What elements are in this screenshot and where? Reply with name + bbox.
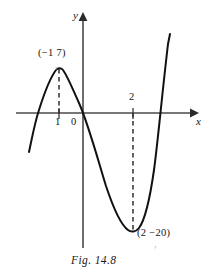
maximum-point-label: (−1 7) bbox=[38, 48, 66, 59]
x-tick-label-1: 1 bbox=[55, 117, 60, 128]
x-axis-label: x bbox=[196, 116, 201, 127]
maximum-point-faint-comma: , bbox=[55, 60, 58, 70]
y-axis-label: y bbox=[73, 10, 78, 21]
x-axis bbox=[16, 109, 199, 118]
x-tick-label-2: 2 bbox=[129, 92, 134, 103]
graph-canvas bbox=[0, 0, 209, 274]
y-axis bbox=[79, 12, 88, 248]
figure-container: y x 0 1 2 (−1 7) , (2 −20) , Fig. 14.8 bbox=[0, 0, 209, 274]
minimum-point-faint-comma: , bbox=[154, 239, 157, 249]
minimum-point-label: (2 −20) bbox=[137, 228, 170, 239]
y-axis-arrowhead bbox=[79, 12, 88, 21]
origin-label: 0 bbox=[71, 117, 76, 128]
cubic-curve bbox=[29, 34, 170, 232]
figure-caption: Fig. 14.8 bbox=[71, 254, 116, 266]
